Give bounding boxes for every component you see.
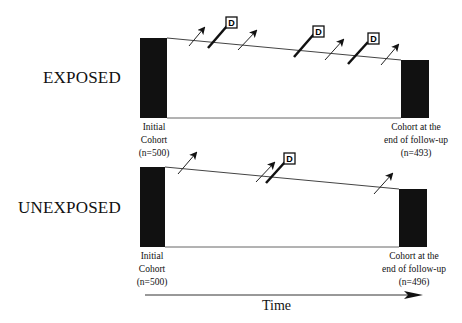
caption-line: (n=496) [368,276,460,289]
caption-line: (n=493) [370,147,462,160]
disease-event-marker: D [348,33,379,64]
loss-arrow-icon [238,31,256,50]
exposed-final-cohort-bar [401,60,429,118]
unexposed-final-cohort-bar [399,189,427,247]
caption-line: Cohort [126,263,178,276]
exposed-group-label: EXPOSED [43,68,121,88]
disease-marker-label: D [315,27,322,37]
disease-marker-label: D [286,154,293,164]
exposed-final-caption: Cohort at the end of follow-up (n=493) [370,121,462,160]
loss-arrow-icon [381,45,398,65]
caption-line: Cohort at the [370,121,462,134]
caption-line: Cohort at the [368,250,460,263]
unexposed-cohort-panel: D [140,153,427,247]
exposed-cohort-top-line [167,38,401,60]
loss-arrow-icon [374,174,392,194]
loss-arrow-icon [325,40,343,60]
caption-line: (n=500) [126,276,178,289]
loss-arrow-icon [178,153,196,174]
caption-line: end of follow-up [368,263,460,276]
caption-line: Cohort [128,134,180,147]
exposed-initial-cohort-bar [140,38,167,118]
disease-marker-label: D [370,34,377,44]
exposed-cohort-panel: D D D [140,17,429,118]
unexposed-initial-cohort-bar [140,167,165,247]
unexposed-initial-caption: Initial Cohort (n=500) [126,250,178,289]
caption-line: end of follow-up [370,134,462,147]
exposed-initial-caption: Initial Cohort (n=500) [128,121,180,160]
unexposed-cohort-top-line [165,167,399,189]
caption-line: Initial [128,121,180,134]
time-axis-label: Time [262,298,291,314]
unexposed-final-caption: Cohort at the end of follow-up (n=496) [368,250,460,289]
loss-arrow-icon [189,28,204,46]
caption-line: Initial [126,250,178,263]
disease-marker-label: D [228,18,235,28]
loss-arrow-icon [256,163,274,182]
caption-line: (n=500) [128,147,180,160]
unexposed-group-label: UNEXPOSED [18,198,121,218]
